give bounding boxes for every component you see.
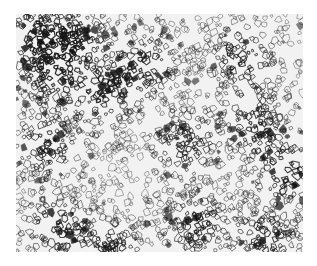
micrograph-image	[16, 14, 303, 252]
grain-structure	[16, 14, 303, 252]
